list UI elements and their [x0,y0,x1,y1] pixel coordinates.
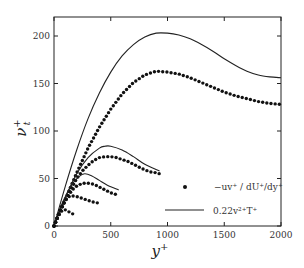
x-tick-label: 0 [51,230,57,240]
series-line [54,33,281,226]
chart: 0500100015002000050100150200 y+ ν+t −uv⁺… [0,0,304,268]
y-tick-label: 200 [33,31,50,41]
series-dots [52,208,74,228]
legend-dots-label: −uv⁺ / dU⁺/dy⁺ [214,182,283,192]
svg-text:y+: y+ [151,241,169,260]
x-tick-label: 1000 [156,230,179,240]
series-dots [52,194,99,227]
y-tick-label: 100 [33,126,50,136]
svg-text:ν+t: ν+t [11,119,32,137]
legend: −uv⁺ / dU⁺/dy⁺ 0.22v²⁺T⁺ [165,182,283,216]
plot-frame [54,17,281,226]
x-tick-label: 1500 [213,230,236,240]
series-dots [52,70,281,228]
y-axis-label: ν+t [11,119,32,137]
y-tick-label: 0 [44,221,50,231]
legend-line-label: 0.22v²⁺T⁺ [213,206,257,216]
x-tick-label: 500 [102,230,119,240]
y-tick-label: 50 [39,174,51,184]
legend-dot-marker [183,185,187,189]
y-tick-label: 150 [33,79,50,89]
x-axis-label: y+ [151,241,169,260]
x-tick-label: 2000 [270,230,293,240]
data-series [52,33,281,228]
